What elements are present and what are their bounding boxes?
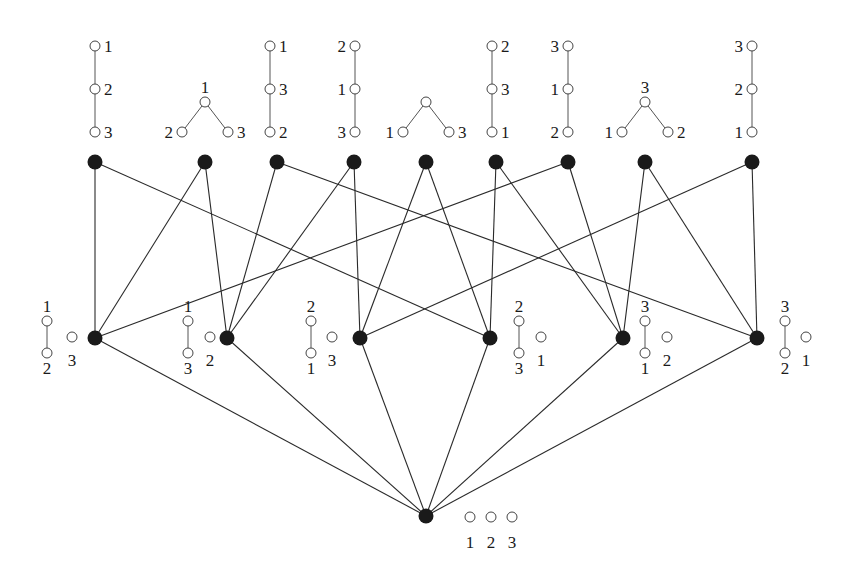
element-node-icon — [444, 127, 454, 137]
element-label: 1 — [184, 297, 193, 316]
element-label: 1 — [537, 351, 546, 370]
edge-T5-M3 — [490, 162, 496, 338]
element-label: 2 — [279, 123, 288, 142]
middle-node-M3[interactable] — [483, 331, 498, 346]
vee-line-left — [403, 102, 426, 132]
top-node-T3[interactable] — [347, 155, 362, 170]
element-label: 1 — [802, 351, 811, 370]
element-node-icon — [801, 332, 811, 342]
top-node-T1[interactable] — [198, 155, 213, 170]
top-glyph-T8: 321 — [735, 37, 758, 142]
element-node-icon — [747, 127, 757, 137]
edge-T4-M2 — [360, 162, 426, 338]
middle-glyph-M4: 312 — [640, 297, 672, 378]
top-node-T4[interactable] — [419, 155, 434, 170]
element-label: 1 — [551, 80, 560, 99]
element-node-icon — [747, 84, 757, 94]
middle-glyph-M2: 213 — [306, 297, 337, 378]
top-node-T0[interactable] — [88, 155, 103, 170]
element-label: 1 — [605, 123, 614, 142]
element-label: 1 — [386, 123, 395, 142]
element-node-icon — [536, 332, 546, 342]
element-label: 3 — [328, 351, 337, 370]
element-label: 2 — [735, 80, 744, 99]
middle-glyph-M1: 132 — [183, 297, 215, 378]
element-label: 3 — [781, 297, 790, 316]
element-node-icon — [306, 348, 316, 358]
top-glyph-T3: 213 — [338, 37, 361, 142]
bottom-node[interactable] — [419, 509, 434, 524]
element-node-icon — [265, 127, 275, 137]
edge-T4-M3 — [426, 162, 490, 338]
middle-node-M4[interactable] — [616, 331, 631, 346]
edge-M4-B — [426, 338, 623, 516]
edge-T0-M3 — [95, 162, 490, 338]
top-glyph-T4: 13 — [386, 97, 467, 142]
element-node-icon — [640, 348, 650, 358]
element-label: 1 — [338, 80, 347, 99]
element-node-icon — [350, 127, 360, 137]
edge-T6-M4 — [568, 162, 623, 338]
edges-layer — [95, 162, 757, 516]
element-label: 2 — [165, 123, 174, 142]
edge-T7-M5 — [645, 162, 757, 338]
glyphs-layer: 1231231322131323131231232112313221323131… — [42, 37, 811, 552]
element-node-icon — [265, 41, 275, 51]
top-glyph-T6: 312 — [551, 37, 574, 142]
edge-T3-M2 — [354, 162, 360, 338]
element-node-icon — [177, 127, 187, 137]
edge-M0-B — [95, 338, 426, 516]
poset-lattice-diagram: 1231231322131323131231232112313221323131… — [0, 0, 855, 581]
middle-node-M0[interactable] — [88, 331, 103, 346]
element-node-icon — [563, 41, 573, 51]
element-node-icon — [617, 127, 627, 137]
top-node-T8[interactable] — [745, 155, 760, 170]
element-node-icon — [350, 84, 360, 94]
edge-T1-M1 — [205, 162, 227, 338]
top-node-T6[interactable] — [561, 155, 576, 170]
element-label: 3 — [735, 37, 744, 56]
element-node-icon — [780, 316, 790, 326]
top-node-T2[interactable] — [270, 155, 285, 170]
edge-T8-M5 — [752, 162, 757, 338]
top-glyph-T2: 132 — [265, 37, 288, 142]
element-node-icon — [42, 316, 52, 326]
element-node-icon — [563, 127, 573, 137]
element-label: 1 — [43, 297, 52, 316]
element-label: 2 — [515, 297, 524, 316]
top-glyph-T0: 123 — [90, 37, 113, 142]
middle-node-M1[interactable] — [220, 331, 235, 346]
bottom-glyph: 123 — [465, 512, 517, 552]
element-label: 1 — [201, 78, 210, 97]
vee-line-right — [205, 102, 228, 132]
top-glyph-T5: 231 — [487, 37, 510, 142]
edge-T8-M2 — [360, 162, 752, 338]
top-node-T5[interactable] — [489, 155, 504, 170]
element-label: 1 — [104, 37, 113, 56]
edge-M5-B — [426, 338, 757, 516]
element-node-icon — [67, 332, 77, 342]
element-label: 2 — [43, 359, 52, 378]
top-node-T7[interactable] — [638, 155, 653, 170]
element-node-icon — [662, 332, 672, 342]
element-label: 3 — [641, 297, 650, 316]
vee-line-left — [182, 102, 205, 132]
edge-M3-B — [426, 338, 490, 516]
vee-line-right — [645, 102, 668, 132]
element-node-icon — [507, 512, 517, 522]
middle-node-M5[interactable] — [750, 331, 765, 346]
element-node-icon — [486, 512, 496, 522]
element-label: 2 — [307, 297, 316, 316]
element-node-icon — [183, 348, 193, 358]
element-label: 2 — [501, 37, 510, 56]
edge-M2-B — [360, 338, 426, 516]
element-node-icon — [350, 41, 360, 51]
top-glyph-T1: 123 — [165, 78, 246, 142]
element-node-icon — [640, 97, 650, 107]
middle-node-M2[interactable] — [353, 331, 368, 346]
element-label: 3 — [338, 123, 347, 142]
element-label: 3 — [458, 123, 467, 142]
top-glyph-T7: 312 — [605, 78, 686, 142]
element-node-icon — [487, 41, 497, 51]
element-node-icon — [306, 316, 316, 326]
